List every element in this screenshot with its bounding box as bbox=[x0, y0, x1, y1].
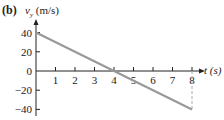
x-tick-label: 2 bbox=[72, 74, 78, 86]
chart-svg: (b) vy (m/s) 40200−20−4012345678 t (s) bbox=[0, 0, 224, 120]
y-axis-label: vy (m/s) bbox=[25, 4, 59, 19]
y-tick-label: −20 bbox=[15, 84, 33, 96]
x-tick-label: 6 bbox=[150, 74, 156, 86]
x-axis-label: t (s) bbox=[204, 64, 222, 77]
velocity-time-chart: (b) vy (m/s) 40200−20−4012345678 t (s) bbox=[0, 0, 224, 120]
y-tick-label: −40 bbox=[15, 103, 33, 115]
plot-area: 40200−20−4012345678 bbox=[15, 19, 205, 116]
y-axis-arrow-icon bbox=[34, 19, 39, 25]
y-axis-unit: (m/s) bbox=[33, 4, 59, 17]
x-tick-label: 1 bbox=[53, 74, 59, 86]
y-tick-label: 40 bbox=[21, 27, 33, 39]
y-tick-label: 0 bbox=[27, 65, 33, 77]
x-tick-label: 4 bbox=[111, 74, 117, 86]
panel-label: (b) bbox=[2, 3, 17, 17]
x-tick-label: 3 bbox=[92, 74, 98, 86]
y-tick-label: 20 bbox=[21, 46, 33, 58]
x-tick-label: 7 bbox=[170, 74, 176, 86]
x-tick-label: 8 bbox=[189, 74, 195, 86]
